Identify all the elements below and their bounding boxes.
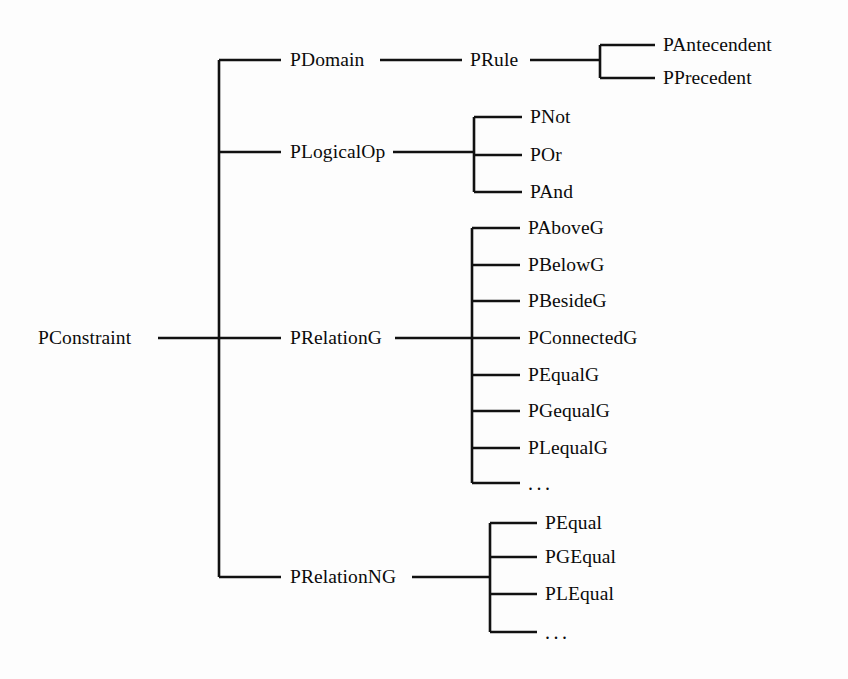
node-label-pand: PAnd	[530, 182, 573, 202]
node-label-plequalg: PLequalG	[528, 438, 608, 458]
node-label-pconstraint: PConstraint	[38, 328, 131, 348]
node-label-pantecendent: PAntecendent	[663, 35, 772, 55]
ellipsis-label: ...	[545, 621, 571, 644]
class-hierarchy-diagram: PConstraintPDomainPLogicalOpPRelationGPR…	[0, 0, 848, 679]
node-label-pconnectedg: PConnectedG	[528, 328, 637, 348]
node-label-paboveg: PAboveG	[528, 218, 604, 238]
node-label-prelationng: PRelationNG	[290, 567, 396, 587]
node-label-plequal: PLEqual	[545, 584, 614, 604]
node-label-pequal: PEqual	[545, 513, 602, 533]
node-label-pdomain: PDomain	[290, 50, 364, 70]
node-label-por: POr	[530, 145, 562, 165]
node-label-pequalg: PEqualG	[528, 365, 599, 385]
node-label-prule: PRule	[470, 50, 518, 70]
node-label-pbelowg: PBelowG	[528, 255, 605, 275]
node-label-pgequalg: PGequalG	[528, 401, 610, 421]
ellipsis-label: ...	[528, 472, 554, 495]
node-label-pgequal: PGEqual	[545, 547, 616, 567]
node-label-pnot: PNot	[530, 107, 571, 127]
node-label-pbesideg: PBesideG	[528, 291, 607, 311]
node-label-prelationg: PRelationG	[290, 328, 382, 348]
node-label-pprecedent: PPrecedent	[663, 68, 752, 88]
node-label-plogicalop: PLogicalOp	[290, 142, 385, 162]
